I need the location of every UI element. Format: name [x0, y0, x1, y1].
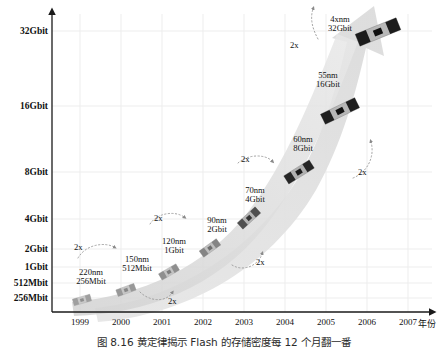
label-90nm-cap: 2Gbit: [189, 225, 245, 234]
label-60nm: 60nm 8Gbit: [275, 135, 331, 153]
label-70nm-cap: 4Gbit: [227, 195, 283, 204]
label-120nm-cap: 1Gbit: [146, 246, 202, 255]
label-70nm: 70nm 4Gbit: [227, 186, 283, 204]
label-150nm: 150nm 512Mbit: [108, 255, 166, 273]
doubling-label-7: 2x: [290, 40, 299, 50]
label-90nm: 90nm 2Gbit: [189, 216, 245, 234]
y-tick-256mbit: 256Mbit: [0, 293, 48, 303]
doubling-label-2: 2x: [168, 296, 177, 306]
doubling-label-4: 2x: [256, 257, 265, 267]
x-axis-title: 年份: [418, 317, 436, 330]
label-120nm: 120nm 1Gbit: [146, 237, 202, 255]
label-4xnm-cap: 32Gbit: [312, 24, 368, 33]
doubling-label-5: 2x: [241, 154, 250, 164]
label-55nm: 55nm 16Gbit: [300, 71, 356, 89]
label-150nm-cap: 512Mbit: [108, 264, 166, 273]
chart-canvas: [0, 0, 448, 356]
label-60nm-cap: 8Gbit: [275, 144, 331, 153]
label-55nm-cap: 16Gbit: [300, 80, 356, 89]
y-tick-8gbit: 8Gbit: [0, 167, 48, 177]
y-tick-4gbit: 4Gbit: [0, 214, 48, 224]
doubling-label-1: 2x: [74, 242, 83, 252]
y-tick-1gbit: 1Gbit: [0, 262, 48, 272]
figure-caption: 图 8.16 黄定律揭示 Flash 的存储密度每 12 个月翻一番: [0, 334, 448, 349]
y-tick-32gbit: 32Gbit: [0, 26, 48, 36]
figure-8-16: 32Gbit 16Gbit 8Gbit 4Gbit 2Gbit 1Gbit 51…: [0, 0, 448, 356]
label-220nm-cap: 256Mbit: [62, 277, 120, 286]
y-tick-16gbit: 16Gbit: [0, 101, 48, 111]
doubling-label-3: 2x: [154, 213, 163, 223]
y-tick-512mbit: 512Mbit: [0, 278, 48, 288]
label-4xnm: 4xnm 32Gbit: [312, 15, 368, 33]
doubling-label-6: 2x: [358, 167, 367, 177]
y-tick-2gbit: 2Gbit: [0, 244, 48, 254]
